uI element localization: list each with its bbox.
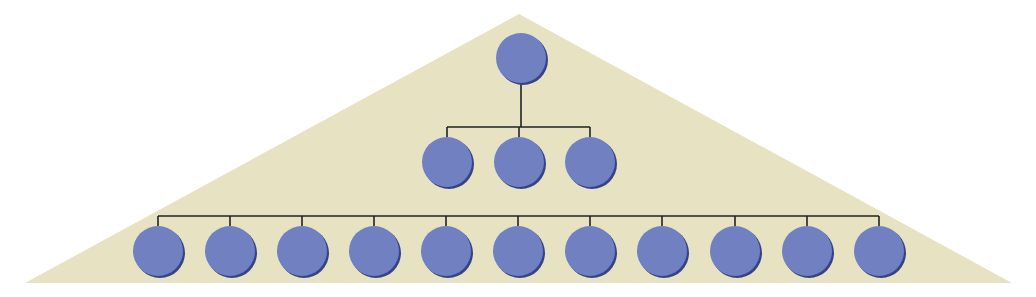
hierarchy-pyramid-diagram xyxy=(0,0,1036,297)
hierarchy-nodes xyxy=(133,33,906,278)
